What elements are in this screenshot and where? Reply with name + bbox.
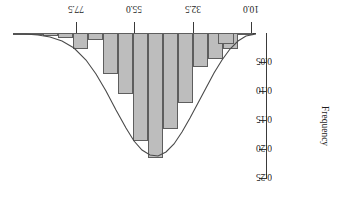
y-tick-label: 0.05 (256, 56, 272, 66)
histogram-bar (218, 33, 234, 44)
histogram-bar (118, 33, 133, 94)
y-tick-label: 0.20 (256, 143, 272, 153)
histogram-bar (133, 33, 148, 141)
histogram-bar (13, 33, 28, 35)
histogram-bar (73, 33, 88, 49)
histogram-bar (28, 33, 43, 35)
histogram-bar (238, 33, 253, 35)
y-tick-label: 0.15 (256, 114, 272, 124)
y-axis-line (266, 33, 267, 179)
y-tick-label: 0.25 (256, 172, 272, 182)
plot-area: 77.555.032.510.0 0.050.100.150.200.25 Fr… (0, 0, 347, 204)
histogram-bar (88, 33, 103, 40)
histogram-bar (163, 33, 178, 129)
histogram-bar (103, 33, 118, 74)
histogram-bar (193, 33, 208, 67)
y-axis-title: Frequency (320, 106, 330, 146)
histogram-figure: 77.555.032.510.0 0.050.100.150.200.25 Fr… (0, 0, 347, 204)
y-tick-label: 0.10 (256, 85, 272, 95)
histogram-bar (178, 33, 193, 103)
bar-group (0, 0, 347, 204)
histogram-bar (58, 33, 73, 38)
histogram-bar (43, 33, 58, 36)
histogram-bar (148, 33, 163, 158)
